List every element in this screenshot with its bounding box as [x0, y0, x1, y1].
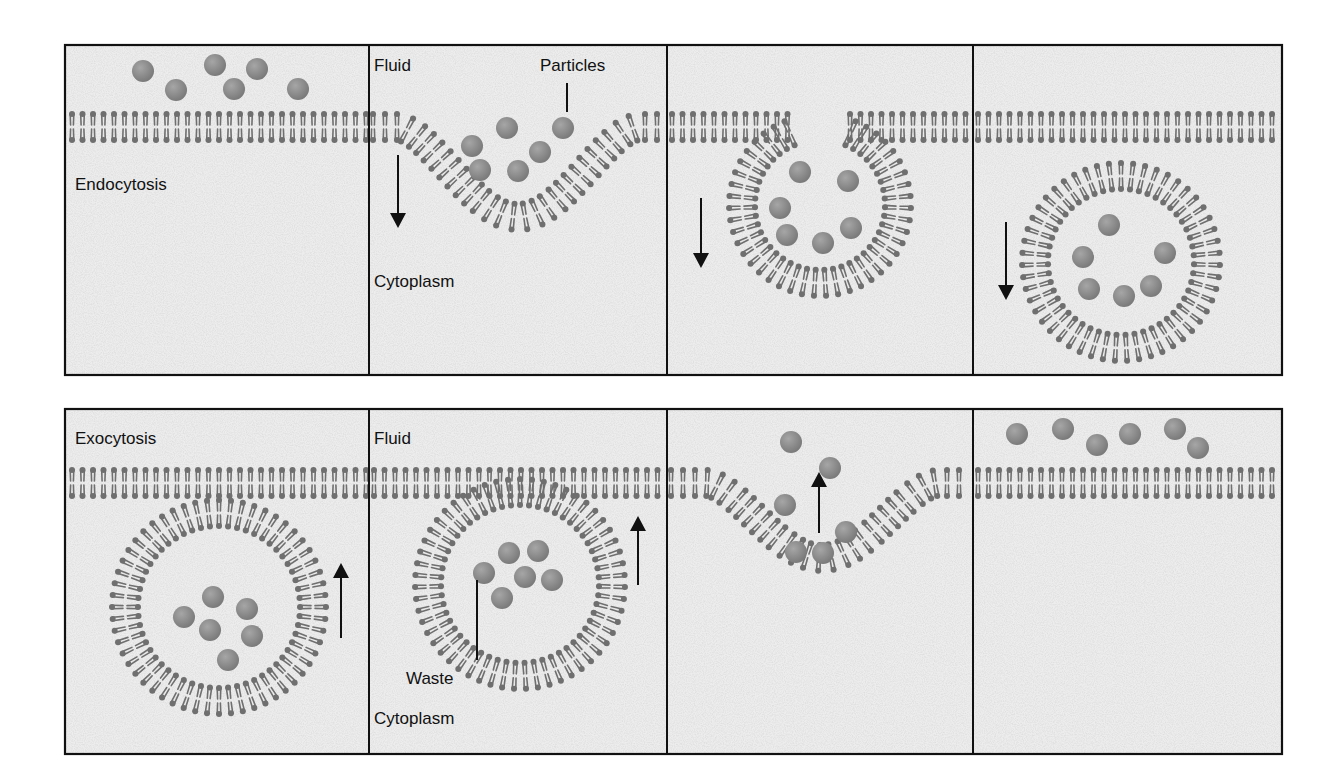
particle — [241, 625, 263, 647]
particle — [1078, 278, 1100, 300]
particle — [780, 431, 802, 453]
particle — [840, 217, 862, 239]
label-cytoplasm: Cytoplasm — [374, 272, 454, 291]
particle — [529, 141, 551, 163]
particle — [507, 160, 529, 182]
particle — [1113, 285, 1135, 307]
label-endocytosis: Endocytosis — [75, 175, 167, 194]
particle — [496, 117, 518, 139]
label-waste: Waste — [406, 669, 454, 688]
particle — [1119, 423, 1141, 445]
particle — [173, 606, 195, 628]
particle — [202, 586, 224, 608]
particle — [812, 232, 834, 254]
particle — [1006, 423, 1028, 445]
particle — [498, 542, 520, 564]
label-fluid: Fluid — [374, 56, 411, 75]
particle — [1187, 437, 1209, 459]
particle — [246, 58, 268, 80]
particle — [789, 161, 811, 183]
particle — [1098, 214, 1120, 236]
particle — [287, 78, 309, 100]
label-cytoplasm: Cytoplasm — [374, 709, 454, 728]
particle — [199, 619, 221, 641]
particle — [819, 457, 841, 479]
particle — [1072, 246, 1094, 268]
particle — [774, 494, 796, 516]
label-fluid: Fluid — [374, 429, 411, 448]
particle — [514, 566, 536, 588]
particle — [776, 224, 798, 246]
label-exocytosis: Exocytosis — [75, 429, 156, 448]
particle — [461, 135, 483, 157]
particle — [552, 117, 574, 139]
particle — [812, 542, 834, 564]
particle — [1086, 434, 1108, 456]
particle — [165, 79, 187, 101]
particle — [1154, 242, 1176, 264]
particle — [769, 197, 791, 219]
particle — [491, 587, 513, 609]
particle — [835, 521, 857, 543]
particle — [1140, 275, 1162, 297]
particle — [527, 540, 549, 562]
particle — [541, 569, 563, 591]
particle — [217, 649, 239, 671]
particle — [204, 54, 226, 76]
particle — [785, 541, 807, 563]
endocytosis-row: EndocytosisFluidParticlesCytoplasm — [65, 45, 1282, 375]
particle — [236, 598, 258, 620]
label-particles: Particles — [540, 56, 605, 75]
particle — [223, 78, 245, 100]
endocytosis-exocytosis-diagram: EndocytosisFluidParticlesCytoplasm Exocy… — [0, 0, 1342, 776]
particle — [132, 60, 154, 82]
exocytosis-row: ExocytosisFluidWasteCytoplasm — [65, 409, 1282, 754]
particle — [1052, 418, 1074, 440]
particle — [1164, 418, 1186, 440]
particle — [469, 159, 491, 181]
particle — [837, 170, 859, 192]
